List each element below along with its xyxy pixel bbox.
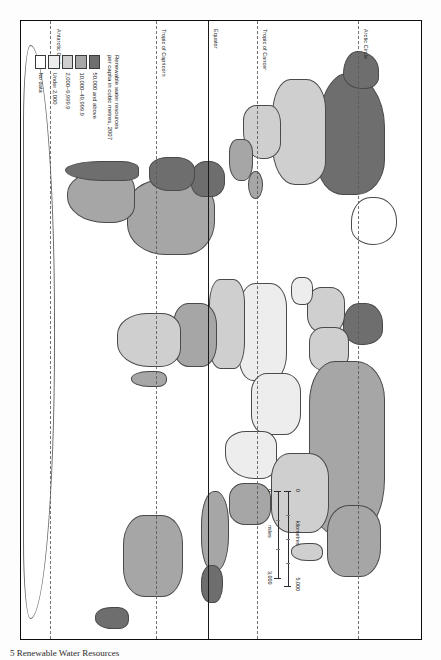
region-southeast-asia	[229, 483, 271, 525]
region-middle-east	[251, 373, 301, 435]
scale-unit-kilometres: kilometres	[295, 521, 301, 546]
region-indonesia	[201, 491, 229, 571]
legend-swatch-2	[62, 55, 74, 69]
scale-km-max: 5,000	[295, 578, 301, 592]
legend-item-4: No data	[35, 55, 47, 140]
label-tropic-of-cancer: Tropic of Cancer	[262, 27, 268, 72]
legend-swatch-0	[89, 55, 101, 69]
scale-mi-min: 0	[267, 489, 273, 492]
legend-label-3: Under 2,000	[50, 73, 57, 105]
region-madagascar	[131, 371, 167, 387]
map-legend: Renewable water resources per capita in …	[35, 55, 120, 140]
scale-unit-miles: miles	[267, 525, 273, 538]
plate-caption: 5 Renewable Water Resources	[10, 648, 435, 658]
legend-item-3: Under 2,000	[48, 55, 60, 140]
region-new-zealand	[95, 607, 129, 629]
graticule-tropic-of-capricorn	[156, 21, 157, 639]
legend-item-1: 10,000–49,999.9	[75, 55, 87, 140]
region-southern-africa	[117, 313, 181, 367]
legend-swatch-3	[48, 55, 60, 69]
atlas-page: Arctic Circle Tropic of Cancer Equator T…	[0, 0, 441, 660]
region-papua-new-guinea	[201, 565, 223, 603]
graticule-arctic-circle	[358, 21, 359, 639]
scale-line-mi	[278, 491, 279, 579]
graticule-tropic-of-cancer	[257, 21, 258, 639]
region-alaska	[343, 51, 379, 89]
label-tropic-of-capricorn: Tropic of Capricorn	[161, 27, 167, 79]
label-arctic-circle: Arctic Circle	[363, 27, 369, 61]
legend-item-2: 2,000–9,999.9	[62, 55, 74, 140]
label-equator: Equator	[213, 27, 219, 51]
legend-title: Renewable water resources per capita in …	[105, 55, 120, 140]
graticule-equator	[208, 21, 209, 639]
legend-label-0: 50,000 and above	[91, 73, 98, 119]
map-stage: Arctic Circle Tropic of Cancer Equator T…	[20, 20, 422, 640]
legend-item-0: 50,000 and above	[89, 55, 101, 140]
legend-swatch-1	[75, 55, 87, 69]
region-siberia-east	[327, 505, 381, 577]
region-caribbean	[248, 171, 263, 199]
scale-mi-max: 3,000	[267, 571, 273, 585]
legend-label-2: 2,000–9,999.9	[64, 73, 71, 110]
region-australia	[123, 515, 183, 597]
region-north-africa	[239, 283, 287, 381]
region-canada	[317, 73, 385, 195]
legend-label-4: No data	[37, 73, 44, 93]
legend-swatch-4	[35, 55, 47, 69]
map-frame: Arctic Circle Tropic of Cancer Equator T…	[20, 20, 422, 640]
scale-line-km	[288, 491, 289, 587]
scale-bar: kilometres 0 5,000 miles 0	[278, 491, 289, 587]
region-central-america	[229, 139, 253, 181]
scale-km-min: 0	[295, 489, 301, 492]
legend-label-1: 10,000–49,999.9	[77, 73, 84, 117]
region-iberia	[291, 277, 313, 305]
